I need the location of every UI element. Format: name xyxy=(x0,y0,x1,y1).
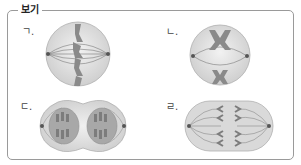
panel-label-d: ㄹ. xyxy=(166,101,178,113)
panel-label-a: ㄱ. xyxy=(22,26,34,38)
bogi-title: 보기 xyxy=(18,3,42,17)
cell-diagram-d xyxy=(183,99,275,153)
cell-diagram-b xyxy=(185,20,255,90)
cell-diagram-c xyxy=(38,98,128,154)
panel-label-c: ㄷ. xyxy=(20,101,32,113)
cell-diagram-a xyxy=(38,18,118,88)
panel-label-b: ㄴ. xyxy=(166,26,178,38)
